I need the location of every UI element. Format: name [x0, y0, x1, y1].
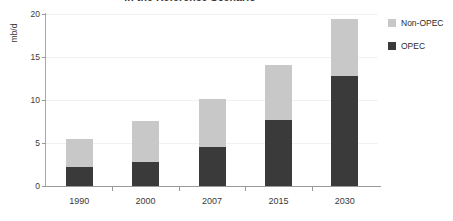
x-axis-tick-label-2030: 2030 [315, 196, 375, 206]
chart-legend: Non-OPECOPEC [388, 18, 453, 64]
legend-item-non-opec[interactable]: Non-OPEC [388, 18, 453, 28]
y-axis-tick-label: 0 [22, 182, 40, 191]
bar-segment-opec[interactable] [132, 162, 159, 186]
chart-figure: in the Reference Scenario mb/d Non-OPECO… [0, 0, 453, 221]
bar-2015[interactable] [265, 65, 292, 186]
x-axis-tick-mark [112, 187, 113, 191]
bar-2007[interactable] [199, 99, 226, 186]
y-axis-tick-mark [42, 100, 46, 101]
x-axis-line [42, 186, 381, 187]
bar-segment-non-opec[interactable] [66, 139, 93, 167]
y-axis-tick-label: 20 [22, 10, 40, 19]
legend-swatch-icon [388, 19, 396, 27]
bar-segment-opec[interactable] [265, 120, 292, 186]
chart-title: in the Reference Scenario [0, 0, 380, 3]
bar-segment-non-opec[interactable] [199, 99, 226, 147]
bar-segment-opec[interactable] [199, 147, 226, 186]
x-axis-tick-mark [179, 187, 180, 191]
plot-area [46, 14, 378, 186]
legend-label: OPEC [401, 41, 425, 51]
bar-1990[interactable] [66, 139, 93, 186]
bar-2030[interactable] [331, 19, 358, 186]
gridline [46, 14, 378, 15]
bar-2000[interactable] [132, 121, 159, 186]
x-axis-tick-mark [312, 187, 313, 191]
gridline [46, 57, 378, 58]
bar-segment-non-opec[interactable] [331, 19, 358, 76]
x-axis-tick-label-1990: 1990 [49, 196, 109, 206]
y-axis-tick-label: 5 [22, 139, 40, 148]
x-axis-tick-label-2007: 2007 [182, 196, 242, 206]
x-axis-tick-label-2000: 2000 [116, 196, 176, 206]
y-axis-tick-label: 10 [22, 96, 40, 105]
y-axis-tick-mark [42, 143, 46, 144]
bar-segment-opec[interactable] [66, 167, 93, 186]
legend-swatch-icon [388, 42, 396, 50]
y-axis-tick-mark [42, 186, 46, 187]
legend-item-opec[interactable]: OPEC [388, 41, 453, 51]
bar-segment-non-opec[interactable] [265, 65, 292, 120]
y-axis-tick-mark [42, 57, 46, 58]
y-axis-tick-label: 15 [22, 53, 40, 62]
y-axis-tick-mark [42, 14, 46, 15]
bar-segment-opec[interactable] [331, 76, 358, 186]
y-axis-label: mb/d [9, 11, 19, 55]
x-axis-tick-label-2015: 2015 [248, 196, 308, 206]
bar-segment-non-opec[interactable] [132, 121, 159, 162]
legend-label: Non-OPEC [401, 18, 444, 28]
x-axis-tick-mark [245, 187, 246, 191]
